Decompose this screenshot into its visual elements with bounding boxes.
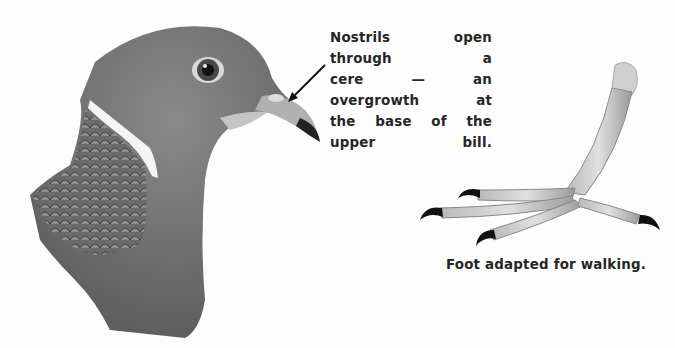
- foot-caption: Foot adapted for walking.: [446, 257, 646, 272]
- nostrils-caption: Nostrils open through a cere — an overgr…: [330, 27, 492, 153]
- nostrils-caption-line-2: cere — an overgrowth at: [330, 69, 492, 111]
- nostrils-caption-line-3: the base of the upper bill.: [330, 111, 492, 153]
- cere-arrow-icon: [288, 65, 325, 102]
- nostrils-caption-line-1: Nostrils open through a: [330, 27, 492, 69]
- pigeon-head: [30, 26, 320, 338]
